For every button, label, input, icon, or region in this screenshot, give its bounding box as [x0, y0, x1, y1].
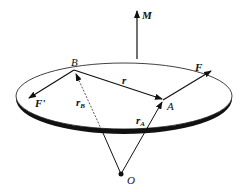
- origin-label: O: [127, 174, 135, 186]
- vector-rb-lower: [103, 133, 121, 174]
- point-b-label: B: [71, 56, 78, 68]
- moment-label: M: [141, 9, 153, 21]
- point-a-label: A: [166, 100, 174, 112]
- vector-r-label: r: [122, 74, 127, 86]
- origin-point: [119, 172, 124, 177]
- force-f-prime-label: F': [34, 97, 45, 109]
- force-f-label: F: [194, 61, 203, 73]
- force-couple-diagram: M rB rA r F' F B A O: [0, 0, 242, 192]
